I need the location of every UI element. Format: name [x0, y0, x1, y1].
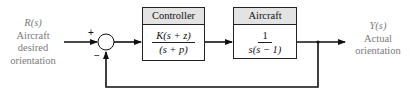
controller-numerator: K(s + z) — [152, 30, 195, 43]
aircraft-block: Aircraft 1 s(s − 1) — [233, 7, 297, 59]
input-symbol: R(s) — [4, 17, 62, 30]
aircraft-denominator: s(s − 1) — [234, 43, 296, 56]
output-desc-2: orientation — [348, 45, 408, 58]
controller-transfer-function: K(s + z) (s + p) — [143, 25, 204, 56]
output-desc-1: Actual — [348, 33, 408, 46]
controller-title: Controller — [143, 8, 204, 25]
plus-sign: + — [88, 27, 94, 38]
aircraft-title: Aircraft — [234, 8, 296, 25]
aircraft-transfer-function: 1 s(s − 1) — [234, 25, 296, 56]
summing-junction — [98, 34, 114, 50]
aircraft-numerator: 1 — [258, 30, 271, 43]
minus-sign: − — [94, 50, 100, 61]
input-desc-2: desired — [4, 42, 62, 55]
input-label: R(s) Aircraft desired orientation — [4, 17, 62, 67]
output-symbol: Y(s) — [348, 20, 408, 33]
controller-block: Controller K(s + z) (s + p) — [142, 7, 205, 61]
input-desc-3: orientation — [4, 55, 62, 68]
output-label: Y(s) Actual orientation — [348, 20, 408, 58]
controller-denominator: (s + p) — [143, 43, 204, 56]
input-desc-1: Aircraft — [4, 30, 62, 43]
